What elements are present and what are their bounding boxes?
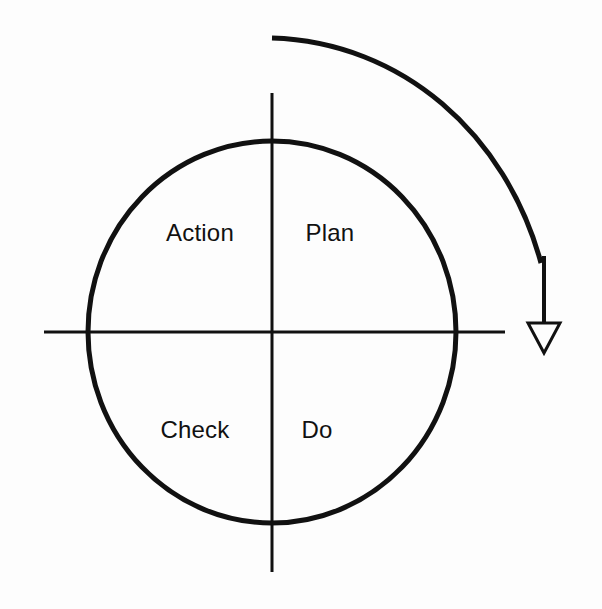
arrowhead-icon	[528, 323, 560, 353]
label-action: Action	[166, 219, 234, 246]
pdca-diagram: Action Plan Check Do	[0, 0, 602, 609]
pdca-diagram-canvas: Action Plan Check Do	[0, 0, 602, 609]
label-do: Do	[301, 416, 332, 443]
label-check: Check	[160, 416, 230, 443]
label-plan: Plan	[306, 219, 355, 246]
